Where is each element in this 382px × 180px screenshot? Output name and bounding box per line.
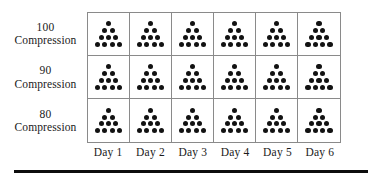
dot-row [309, 35, 329, 40]
dot-row [305, 128, 332, 133]
dot [270, 28, 275, 33]
dot [148, 121, 153, 126]
dot [113, 78, 118, 83]
dot-row [305, 42, 332, 47]
dot [228, 85, 233, 90]
dot [106, 121, 111, 126]
dot [239, 35, 244, 40]
dot [316, 108, 321, 113]
dot [320, 28, 325, 33]
dot-row [263, 85, 290, 90]
dot-row [95, 85, 122, 90]
dot [327, 128, 332, 133]
grid-cell [130, 99, 172, 142]
dot-row [221, 128, 248, 133]
dot [197, 78, 202, 83]
dot [274, 35, 279, 40]
dot [225, 35, 230, 40]
dot [270, 128, 275, 133]
grid-cell [256, 99, 298, 142]
dot [313, 28, 318, 33]
dot [190, 35, 195, 40]
grid-cell [298, 56, 340, 99]
dot-row [316, 64, 321, 69]
dot-row [225, 121, 245, 126]
dot [99, 35, 104, 40]
dot [274, 78, 279, 83]
dot-row [270, 71, 283, 76]
dot [305, 42, 310, 47]
dot [186, 42, 191, 47]
dot-row [183, 121, 203, 126]
dot [155, 121, 160, 126]
dot [113, 121, 118, 126]
dot [278, 42, 283, 47]
dot [179, 42, 184, 47]
dot-triangle [305, 21, 332, 47]
dot-row [267, 121, 287, 126]
dot-row [228, 28, 241, 33]
dot [95, 42, 100, 47]
dot [232, 108, 237, 113]
dot-triangle [263, 108, 290, 134]
dot-triangle [95, 108, 122, 134]
dot [102, 85, 107, 90]
dot [194, 85, 199, 90]
dot-row [144, 115, 157, 120]
dot [281, 35, 286, 40]
column-label-day-5: Day 5 [256, 146, 298, 158]
dot [155, 35, 160, 40]
dot-row [186, 71, 199, 76]
dot [183, 121, 188, 126]
dot [225, 78, 230, 83]
dot [274, 108, 279, 113]
row-label-unit: Compression [15, 78, 77, 91]
dot [186, 85, 191, 90]
dot-row [316, 21, 321, 26]
grid-cell [256, 56, 298, 99]
dot [236, 28, 241, 33]
dot [327, 42, 332, 47]
dot [274, 21, 279, 26]
column-label-day-4: Day 4 [214, 146, 256, 158]
dot [281, 78, 286, 83]
dot [190, 121, 195, 126]
dot [99, 121, 104, 126]
dot-row [221, 85, 248, 90]
dot [159, 42, 164, 47]
dot [102, 128, 107, 133]
dot [155, 78, 160, 83]
dot [267, 35, 272, 40]
dot [148, 108, 153, 113]
dot [263, 42, 268, 47]
column-label-day-1: Day 1 [87, 146, 129, 158]
dot-row [270, 28, 283, 33]
dot [232, 78, 237, 83]
dot-array-figure: 100 Compression 90 Compression 80 Compre… [0, 0, 382, 180]
dot [137, 128, 142, 133]
dot [144, 115, 149, 120]
dot-row [267, 78, 287, 83]
dot [270, 85, 275, 90]
dot [144, 85, 149, 90]
dot [243, 42, 248, 47]
dot-row [186, 115, 199, 120]
dot-triangle [263, 21, 290, 47]
dot [313, 115, 318, 120]
dot [320, 71, 325, 76]
dot [236, 71, 241, 76]
dot-triangle [137, 108, 164, 134]
dot [316, 21, 321, 26]
dot-triangle [179, 108, 206, 134]
dot-row [309, 121, 329, 126]
grid-cell [130, 56, 172, 99]
dot [309, 121, 314, 126]
dot [179, 85, 184, 90]
dot-row [267, 35, 287, 40]
dot-row [141, 35, 161, 40]
dot [274, 121, 279, 126]
dot [194, 42, 199, 47]
dot [141, 121, 146, 126]
dot-row [99, 78, 119, 83]
dot [102, 42, 107, 47]
